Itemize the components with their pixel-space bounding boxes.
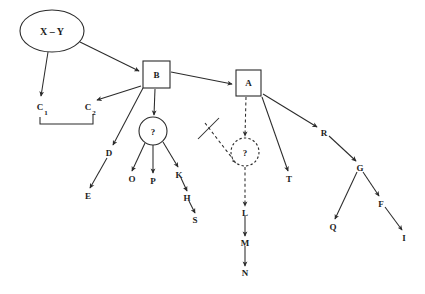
edge-g-to-q — [335, 172, 357, 219]
node-n[interactable]: N — [242, 268, 249, 278]
c1-label: C — [37, 102, 44, 112]
node-a[interactable]: A — [236, 70, 261, 96]
node-question-solid[interactable]: ? — [139, 117, 167, 145]
node-k[interactable]: K — [175, 170, 182, 180]
node-l[interactable]: L — [242, 208, 248, 218]
edges-layer — [40, 42, 402, 266]
node-f[interactable]: F — [378, 199, 384, 209]
edge-xy-to-b — [80, 42, 139, 71]
node-question-dashed[interactable]: ? — [231, 138, 259, 166]
node-c2[interactable]: C 2 — [85, 102, 97, 117]
edge-b-to-c2 — [97, 86, 141, 100]
node-t[interactable]: T — [286, 174, 292, 184]
node-r[interactable]: R — [321, 128, 328, 138]
node-d[interactable]: D — [106, 148, 113, 158]
node-q[interactable]: Q — [329, 222, 336, 232]
edge-qsolid-to-o — [132, 143, 145, 171]
edge-b-to-a — [171, 72, 232, 84]
edge-a-to-t — [262, 97, 288, 171]
c2-subscript: 2 — [92, 109, 96, 117]
diagram-root: X – Y B A ? ? C 1 — [0, 0, 425, 294]
edge-qsolid-to-k — [163, 142, 178, 167]
node-e[interactable]: E — [85, 191, 91, 201]
edge-b-to-d — [113, 88, 143, 145]
link-cut-mark — [198, 118, 219, 139]
b-label: B — [153, 70, 159, 80]
edge-r-to-g — [329, 136, 356, 161]
edge-f-to-i — [385, 207, 402, 230]
c1-subscript: 1 — [44, 109, 48, 117]
edge-b-to-qsolid — [154, 89, 155, 115]
node-c1[interactable]: C 1 — [37, 102, 49, 117]
node-i[interactable]: I — [402, 233, 406, 243]
question-solid-label: ? — [151, 127, 156, 137]
node-p[interactable]: P — [150, 176, 156, 186]
node-xy[interactable]: X – Y — [20, 10, 84, 52]
edge-g-to-f — [363, 172, 379, 196]
node-arrow-diagram: X – Y B A ? ? C 1 — [0, 0, 425, 294]
edge-a-to-qdashed — [245, 97, 246, 136]
xy-label: X – Y — [40, 26, 65, 37]
node-h[interactable]: H — [183, 193, 190, 203]
edge-xy-to-c1 — [41, 52, 48, 96]
question-dashed-label: ? — [243, 148, 248, 158]
nodes-layer: X – Y B A ? ? — [20, 10, 261, 166]
node-s[interactable]: S — [192, 215, 197, 225]
c1-c2-bracket — [40, 114, 93, 124]
node-o[interactable]: O — [128, 174, 135, 184]
node-m[interactable]: M — [241, 238, 250, 248]
c2-label: C — [85, 102, 92, 112]
a-label: A — [245, 78, 252, 88]
node-g[interactable]: G — [356, 163, 363, 173]
leaf-labels-layer: C 1 C 2 D E O P K H S L M N T R G Q F I — [37, 102, 406, 278]
edge-d-to-e — [90, 158, 107, 188]
node-b[interactable]: B — [143, 61, 170, 88]
